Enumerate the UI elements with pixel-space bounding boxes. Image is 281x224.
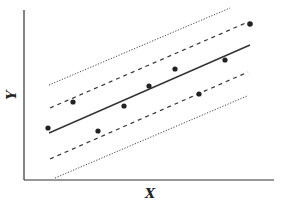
data-point xyxy=(70,99,75,104)
data-point xyxy=(95,128,100,133)
data-point xyxy=(146,83,151,88)
lower-prediction-band xyxy=(55,96,247,178)
data-points xyxy=(45,21,252,133)
x-axis-label: X xyxy=(144,186,156,201)
data-point xyxy=(196,91,201,96)
upper-prediction-band xyxy=(49,8,230,85)
data-point xyxy=(172,66,177,71)
data-point xyxy=(222,57,227,62)
scatter-regression-chart: X Y xyxy=(0,0,281,224)
regression-line xyxy=(49,45,250,133)
data-point xyxy=(247,21,253,27)
data-point xyxy=(121,103,126,108)
y-axis-label: Y xyxy=(4,89,19,100)
upper-confidence-band xyxy=(50,22,248,108)
data-point xyxy=(45,125,50,130)
